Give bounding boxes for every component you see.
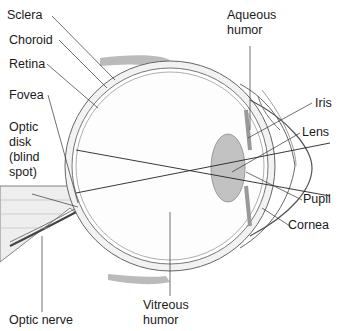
eye-diagram (0, 0, 343, 331)
label-aqueous-humor: Aqueous humor (227, 8, 276, 38)
label-cornea: Cornea (288, 218, 329, 233)
eyeball (65, 61, 312, 271)
label-choroid: Choroid (9, 33, 53, 48)
label-retina: Retina (9, 57, 45, 72)
label-fovea: Fovea (9, 88, 44, 103)
label-iris: Iris (315, 96, 332, 111)
label-vitreous-humor: Vitreous humor (143, 298, 189, 328)
label-sclera: Sclera (7, 8, 42, 23)
label-optic-disk: Optic disk (blind spot) (9, 120, 40, 180)
label-optic-nerve: Optic nerve (9, 313, 73, 328)
label-lens: Lens (302, 125, 329, 140)
label-pupil: Pupil (303, 192, 331, 207)
